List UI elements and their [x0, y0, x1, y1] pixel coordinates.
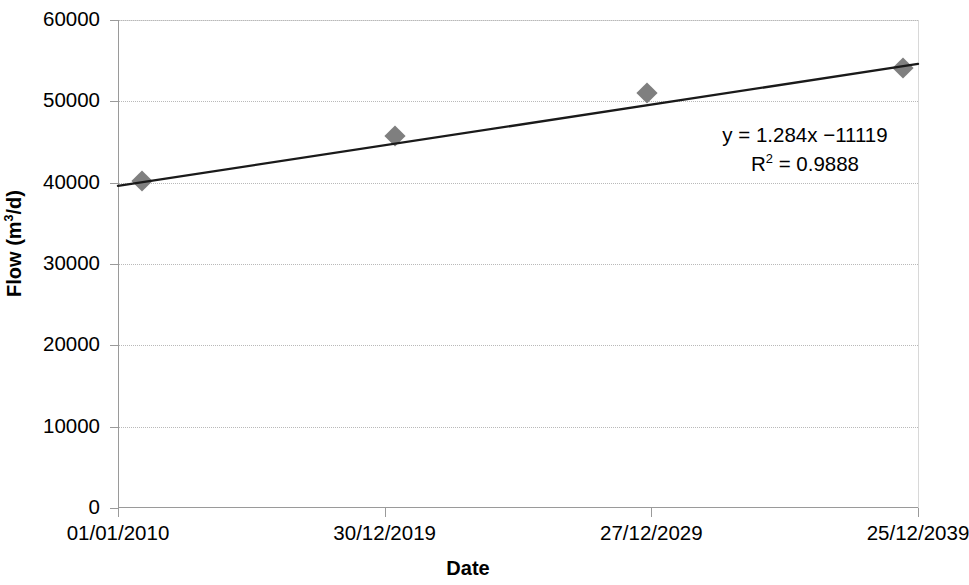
gridline	[118, 345, 918, 346]
y-tick-mark	[110, 345, 119, 346]
y-tick-mark	[110, 20, 119, 21]
y-tick-mark	[110, 183, 119, 184]
trendline-equation-text: y = 1.284x −11119	[690, 120, 920, 149]
y-tick-label: 60000	[0, 7, 100, 31]
x-tick-label: 30/12/2019	[333, 521, 436, 545]
y-tick-mark	[110, 264, 119, 265]
trendline-equation-annotation: y = 1.284x −11119 R2 = 0.9888	[690, 120, 920, 178]
r-squared-value: = 0.9888	[779, 152, 859, 175]
gridline	[118, 101, 918, 102]
plot-border-right	[918, 20, 919, 508]
x-tick-mark	[918, 508, 919, 517]
gridline	[118, 264, 918, 265]
y-tick-mark	[110, 427, 119, 428]
x-tick-mark	[118, 508, 119, 517]
y-axis-title-suffix: /d)	[3, 190, 25, 214]
y-tick-mark	[110, 101, 119, 102]
x-tick-mark	[385, 508, 386, 517]
y-axis-title-superscript: 3	[2, 215, 16, 222]
r-squared-exponent: 2	[766, 151, 773, 166]
y-tick-label: 50000	[0, 88, 100, 112]
y-tick-label: 0	[0, 495, 100, 519]
y-axis-title-prefix: Flow (m	[3, 221, 25, 297]
y-axis-title: Flow (m3/d)	[3, 144, 26, 344]
x-tick-label: 25/12/2039	[867, 521, 969, 545]
y-tick-label: 10000	[0, 414, 100, 438]
x-tick-mark	[651, 508, 652, 517]
r-squared-text: R2 = 0.9888	[690, 149, 920, 178]
x-tick-label: 27/12/2029	[600, 521, 703, 545]
x-tick-label: 01/01/2010	[67, 521, 170, 545]
x-axis-title: Date	[0, 557, 936, 580]
gridline	[118, 20, 918, 21]
gridline	[118, 427, 918, 428]
r-squared-symbol: R	[751, 152, 766, 175]
gridline	[118, 183, 918, 184]
